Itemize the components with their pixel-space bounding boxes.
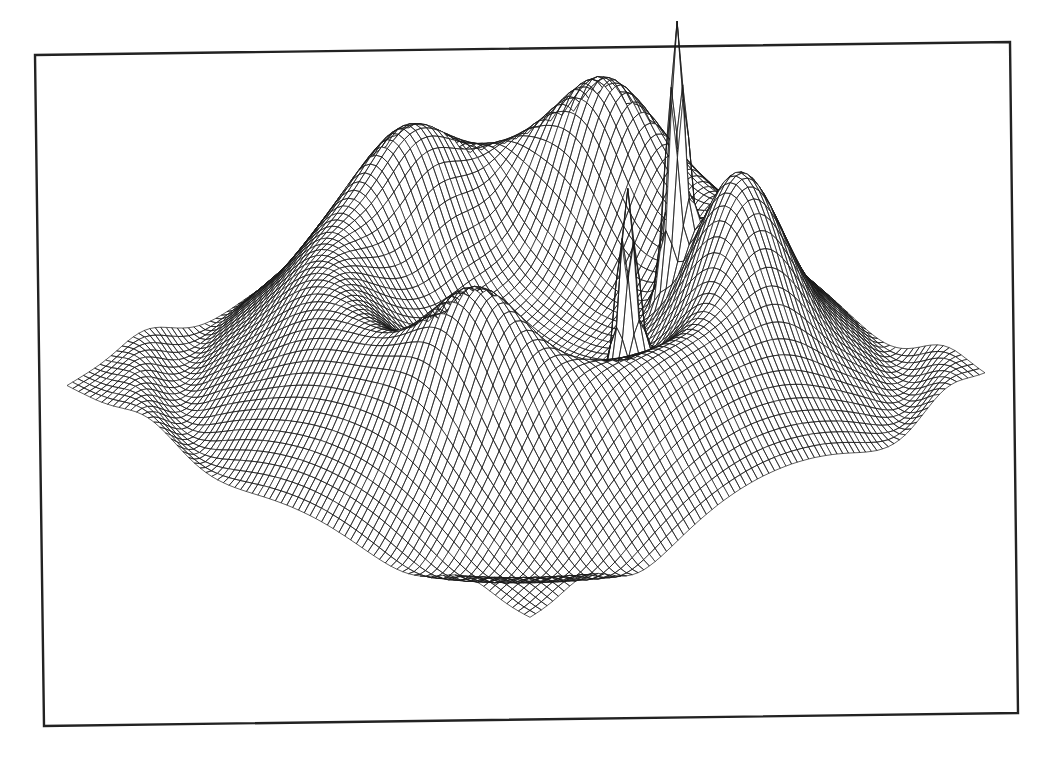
figure: 3D wireframe mesh surface plot, no axes … <box>0 0 1055 765</box>
surface-plot <box>0 0 1055 765</box>
